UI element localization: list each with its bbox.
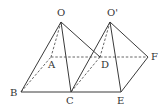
pyramid-diagram: O O' A D F B C E xyxy=(0,0,166,106)
label-F: F xyxy=(151,51,158,62)
label-C: C xyxy=(66,95,74,106)
label-E: E xyxy=(117,95,124,106)
edge-O-D xyxy=(61,22,100,57)
edge-O2-D xyxy=(100,22,110,57)
label-D: D xyxy=(101,59,109,70)
edge-B-A xyxy=(21,57,51,92)
edge-O-B xyxy=(21,22,61,92)
label-A: A xyxy=(47,59,56,70)
edge-O2-F xyxy=(110,22,148,57)
edge-O-A xyxy=(51,22,61,57)
edge-C-D xyxy=(71,57,100,92)
label-O-prime: O' xyxy=(107,7,118,18)
vertex-labels: O O' A D F B C E xyxy=(10,7,158,106)
visible-edges xyxy=(21,22,148,92)
label-O: O xyxy=(57,7,65,18)
edge-E-F xyxy=(121,57,148,92)
label-B: B xyxy=(10,87,17,98)
